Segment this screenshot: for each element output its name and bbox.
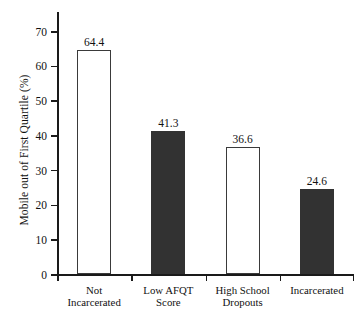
y-tick-label-70: 70 xyxy=(36,26,48,38)
y-tick-50: 50 xyxy=(51,100,57,102)
y-tick-label-50: 50 xyxy=(36,95,48,107)
category-label-line: Incarcerated xyxy=(272,284,362,296)
y-tick-20: 20 xyxy=(51,205,57,207)
y-tick-10: 10 xyxy=(51,239,57,241)
y-tick-30: 30 xyxy=(51,170,57,172)
y-tick-label-0: 0 xyxy=(41,269,47,281)
y-tick-70: 70 xyxy=(51,31,57,33)
y-tick-label-20: 20 xyxy=(36,199,48,211)
y-axis-title: Mobile out of First Quartile (%) xyxy=(18,30,30,270)
x-tick-2 xyxy=(206,275,208,281)
y-tick-label-40: 40 xyxy=(36,130,48,142)
bar-chart: Mobile out of First Quartile (%) 0102030… xyxy=(0,0,362,312)
x-tick-1 xyxy=(131,275,133,281)
bar-value-label-2: 36.6 xyxy=(233,133,253,145)
bar-1: 41.3 xyxy=(151,131,185,274)
y-tick-label-60: 60 xyxy=(36,60,48,72)
bar-value-label-1: 41.3 xyxy=(158,117,178,129)
bar-0: 64.4 xyxy=(77,50,111,274)
category-label-line: Dropouts xyxy=(198,296,288,308)
x-tick-4 xyxy=(353,275,355,281)
plot-area: 010203040506070 64.441.336.624.6 NotInca… xyxy=(57,12,354,275)
bar-2: 36.6 xyxy=(226,147,260,274)
x-tick-0 xyxy=(57,275,59,281)
y-tick-60: 60 xyxy=(51,66,57,68)
y-tick-label-10: 10 xyxy=(36,234,48,246)
bar-3: 24.6 xyxy=(300,189,334,274)
bar-value-label-3: 24.6 xyxy=(307,175,327,187)
y-tick-40: 40 xyxy=(51,135,57,137)
x-tick-3 xyxy=(280,275,282,281)
y-tick-label-30: 30 xyxy=(36,165,48,177)
y-axis-line xyxy=(57,12,59,275)
category-label-3: Incarcerated xyxy=(272,284,362,296)
bar-value-label-0: 64.4 xyxy=(84,36,104,48)
